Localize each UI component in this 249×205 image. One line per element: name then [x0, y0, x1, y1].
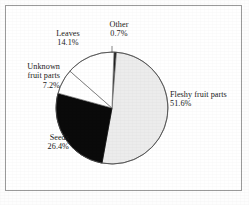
pie-slices — [56, 52, 168, 164]
slice-label-leaves-text: Leaves — [56, 29, 79, 38]
slice-label-unknown-value: 7.2% — [2, 81, 60, 90]
slice-label-seeds: Seeds 26.4% — [21, 133, 69, 152]
slice-label-unknown-fruit-parts: Unknown fruit parts 7.2% — [2, 62, 60, 90]
slice-label-leaves: Leaves 14.1% — [47, 29, 89, 48]
slice-label-fleshy-text: Fleshy fruit parts — [170, 90, 227, 99]
slice-label-fleshy-fruit-parts: Fleshy fruit parts 51.6% — [170, 90, 248, 109]
slice-label-unknown-line2: fruit parts — [2, 71, 60, 80]
slice-label-other-value: 0.7% — [96, 29, 142, 38]
slice-label-fleshy-value: 51.6% — [170, 99, 248, 108]
pie-chart-figure: Other 0.7% Leaves 14.1% Unknown fruit pa… — [0, 0, 249, 205]
slice-label-seeds-value: 26.4% — [21, 142, 69, 151]
slice-label-seeds-text: Seeds — [50, 133, 69, 142]
slice-label-other-text: Other — [110, 20, 129, 29]
slice-label-other: Other 0.7% — [96, 20, 142, 39]
slice-label-leaves-value: 14.1% — [47, 38, 89, 47]
slice-label-unknown-line1: Unknown — [27, 62, 60, 71]
